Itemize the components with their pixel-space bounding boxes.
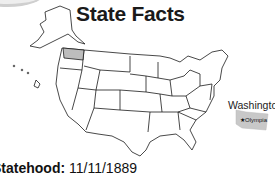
- statehood-label: Statehood:: [0, 160, 65, 174]
- us-map: [0, 0, 275, 174]
- hawaii-shape: [34, 80, 40, 88]
- us-outline: [56, 48, 228, 156]
- statehood-line: Statehood: 11/11/1889: [0, 160, 137, 174]
- washington-highlight: [63, 48, 84, 60]
- state-name-label: Washington: [228, 99, 275, 111]
- statehood-date: 11/11/1889: [69, 160, 137, 174]
- page-title: State Facts: [76, 2, 185, 26]
- capital-label: ★Olympia: [240, 116, 267, 123]
